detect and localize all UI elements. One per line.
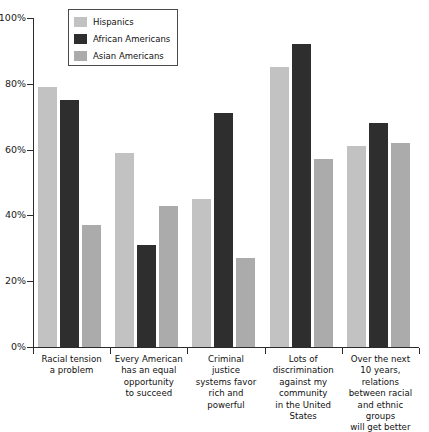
x-axis-category-line: 10 years,: [342, 365, 419, 376]
x-axis-category-label: Criminaljusticesystems favorrich andpowe…: [187, 354, 264, 411]
x-axis-category-line: Every American: [110, 354, 187, 365]
bar: [314, 159, 333, 347]
x-axis-category-line: systems favor: [187, 377, 264, 388]
y-axis-tick-label: 20%: [5, 276, 26, 286]
x-axis-category-line: Over the next: [342, 354, 419, 365]
y-axis-tick-label: 40%: [5, 210, 26, 220]
legend-swatch-african-americans: [74, 34, 87, 44]
bar: [137, 245, 156, 347]
bar: [192, 199, 211, 347]
bar: [82, 225, 101, 347]
x-axis-category-line: community: [265, 388, 342, 399]
y-axis-tick-label: 0%: [11, 342, 26, 352]
x-axis-category-label: Racial tensiona problem: [33, 354, 110, 377]
x-axis-category-label: Over the next10 years,relationsbetween r…: [342, 354, 419, 432]
chart-legend: Hispanics African Americans Asian Americ…: [68, 9, 178, 66]
x-axis-category-line: will get better: [342, 422, 419, 432]
x-axis-category-line: a problem: [33, 365, 110, 376]
x-axis-category-label: Lots ofdiscriminationagainst mycommunity…: [265, 354, 342, 422]
y-axis-tick-label: 100%: [0, 13, 26, 23]
bar-group: [265, 18, 342, 347]
bar: [369, 123, 388, 347]
x-axis-category-line: groups: [342, 411, 419, 422]
bar-group: [33, 18, 110, 347]
x-axis-category-line: and ethnic: [342, 400, 419, 411]
y-axis-tick-label: 60%: [5, 145, 26, 155]
legend-swatch-asian-americans: [74, 51, 87, 61]
bar: [214, 113, 233, 347]
x-axis-category-line: discrimination: [265, 365, 342, 376]
x-axis-line: [33, 347, 419, 348]
plot-area: [33, 18, 419, 347]
x-axis-labels: Racial tensiona problemEvery Americanhas…: [33, 354, 419, 432]
legend-label-african-americans: African Americans: [93, 34, 170, 44]
x-axis-category-line: to succeed: [110, 388, 187, 399]
bar: [159, 206, 178, 347]
x-axis-category-line: against my: [265, 377, 342, 388]
x-axis-category-line: in the United: [265, 400, 342, 411]
y-axis-tick-label: 80%: [5, 79, 26, 89]
bar: [38, 87, 57, 347]
bar: [115, 153, 134, 347]
legend-item-hispanics: Hispanics: [74, 14, 172, 30]
legend-item-african-americans: African Americans: [74, 31, 172, 47]
bar: [60, 100, 79, 347]
x-axis-category-line: States: [265, 411, 342, 422]
x-axis-category-line: opportunity: [110, 377, 187, 388]
x-axis-category-line: justice: [187, 365, 264, 376]
x-axis-category-line: Criminal: [187, 354, 264, 365]
x-axis-category-line: between racial: [342, 388, 419, 399]
bar: [347, 146, 366, 347]
x-axis-category-line: has an equal: [110, 365, 187, 376]
bar-group: [110, 18, 187, 347]
legend-swatch-hispanics: [74, 17, 87, 27]
x-axis-category-line: relations: [342, 377, 419, 388]
bar: [292, 44, 311, 347]
bar-chart: 0%20%40%60%80%100% Hispanics African Ame…: [0, 0, 429, 432]
x-axis-group-tick: [419, 348, 420, 354]
x-axis-category-label: Every Americanhas an equalopportunityto …: [110, 354, 187, 400]
x-axis-category-line: Lots of: [265, 354, 342, 365]
legend-item-asian-americans: Asian Americans: [74, 48, 172, 64]
bar-group: [187, 18, 264, 347]
x-axis-category-line: powerful: [187, 400, 264, 411]
bar-group: [342, 18, 419, 347]
x-axis-category-line: rich and: [187, 388, 264, 399]
x-axis-category-line: Racial tension: [33, 354, 110, 365]
legend-label-asian-americans: Asian Americans: [93, 51, 164, 61]
bar: [270, 67, 289, 347]
bar: [391, 143, 410, 347]
bar: [236, 258, 255, 347]
legend-label-hispanics: Hispanics: [93, 17, 134, 27]
